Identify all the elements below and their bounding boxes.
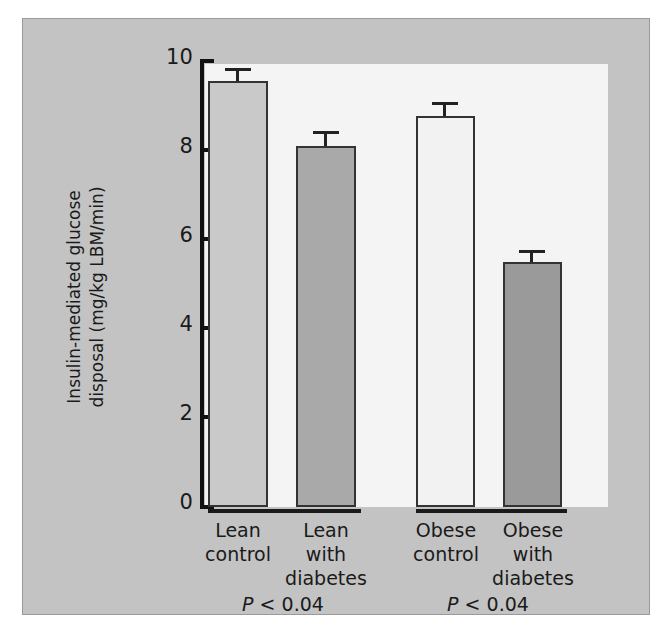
errorbar-cap-obese-with-diabetes	[519, 250, 545, 253]
x-label-obese-with-diabetes-line-2: with	[474, 543, 592, 567]
pvalue-text-lean: < 0.04	[254, 593, 324, 615]
pvalue-symbol-lean: P	[242, 593, 253, 615]
x-label-obese-with-diabetes-line-1: Obese	[474, 519, 592, 543]
y-axis-title-line-2: disposal (mg/kg LBM/min)	[86, 97, 109, 497]
y-axis-line	[200, 59, 204, 509]
bar-lean-with-diabetes	[296, 146, 356, 507]
chart-panel: 10 8 6 4 2 0 Insulin-mediated glucose di…	[22, 18, 650, 615]
errorbar-cap-lean-with-diabetes	[313, 131, 339, 134]
bar-lean-control	[208, 81, 268, 507]
y-tick-label-8: 8	[145, 134, 193, 158]
pvalue-text-obese: < 0.04	[459, 593, 529, 615]
y-tick-label-2: 2	[145, 401, 193, 425]
y-tick-label-4: 4	[145, 312, 193, 336]
x-label-lean-with-diabetes-line-2: with	[267, 543, 385, 567]
pvalue-symbol-obese: P	[447, 593, 458, 615]
x-label-lean-with-diabetes-line-3: diabetes	[267, 567, 385, 591]
x-label-obese-with-diabetes-line-3: diabetes	[474, 567, 592, 591]
y-axis-title-line-1: Insulin-mediated glucose	[63, 97, 86, 497]
errorbar-cap-obese-control	[432, 102, 458, 105]
y-axis-title: Insulin-mediated glucose disposal (mg/kg…	[63, 97, 109, 497]
x-label-lean-with-diabetes: Lean with diabetes	[267, 519, 385, 590]
errorbar-cap-lean-control	[225, 68, 251, 71]
figure-container: 10 8 6 4 2 0 Insulin-mediated glucose di…	[0, 0, 668, 633]
y-axis-top-cap	[200, 59, 214, 63]
group-rule-lean	[208, 509, 361, 513]
pvalue-annotation-lean: P < 0.04	[203, 593, 363, 615]
y-tick-label-10: 10	[145, 45, 193, 69]
pvalue-annotation-obese: P < 0.04	[408, 593, 568, 615]
y-tick-label-0: 0	[145, 490, 193, 514]
x-label-obese-with-diabetes: Obese with diabetes	[474, 519, 592, 590]
y-tick-label-6: 6	[145, 223, 193, 247]
bar-obese-control	[416, 116, 475, 507]
x-label-lean-with-diabetes-line-1: Lean	[267, 519, 385, 543]
group-rule-obese	[416, 509, 567, 513]
bar-obese-with-diabetes	[503, 262, 562, 507]
